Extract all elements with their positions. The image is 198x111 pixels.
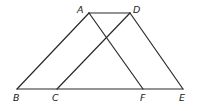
label-e: E	[179, 92, 185, 103]
label-c: C	[52, 92, 59, 103]
segment-af	[89, 13, 143, 89]
segment-dc	[57, 13, 130, 89]
segment-ab	[17, 13, 89, 89]
geometry-diagram: A D B C F E	[0, 0, 198, 111]
label-f: F	[140, 92, 146, 103]
segment-de	[130, 13, 183, 89]
label-b: B	[13, 92, 20, 103]
label-a: A	[76, 4, 84, 15]
label-d: D	[133, 4, 140, 15]
